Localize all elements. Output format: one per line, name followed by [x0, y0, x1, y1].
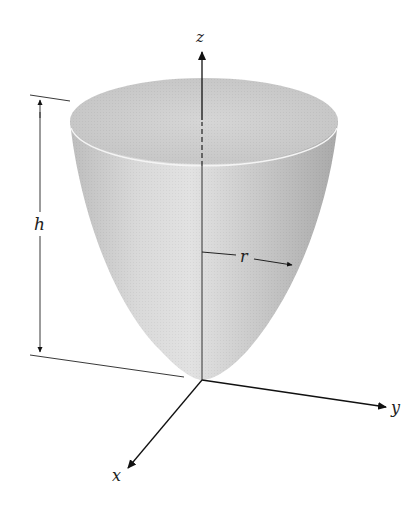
paraboloid-diagram: z y x h r [0, 0, 417, 506]
y-axis-label: y [390, 398, 401, 417]
z-axis-label: z [195, 28, 204, 46]
x-axis-label: x [112, 466, 121, 485]
radius-label: r [240, 247, 249, 266]
y-axis: y [202, 380, 401, 417]
x-axis: x [112, 380, 202, 485]
height-label: h [34, 214, 45, 234]
